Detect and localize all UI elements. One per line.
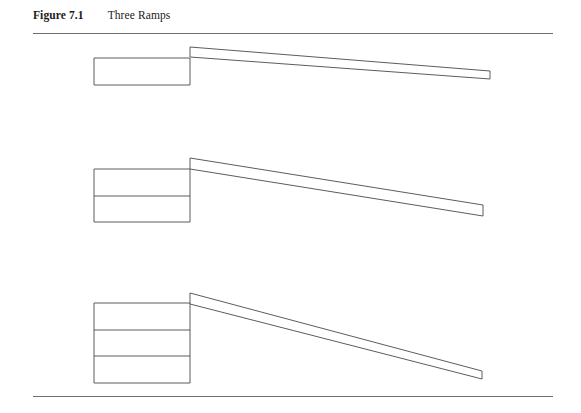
ramp-3-block-stack [94,303,190,383]
ramp-3-incline [190,293,482,379]
ramp-diagram-1 [94,47,490,85]
ramp-diagram-3 [94,293,482,383]
ramp-1-block-1 [94,58,190,85]
ramp-2-block-stack [94,169,190,222]
ramp-diagrams-svg [0,0,581,413]
figure-container: Figure 7.1 Three Ramps [0,0,581,413]
ramp-2-incline [190,158,483,216]
ramp-1-incline [190,47,490,79]
ramp-diagram-2 [94,158,483,222]
